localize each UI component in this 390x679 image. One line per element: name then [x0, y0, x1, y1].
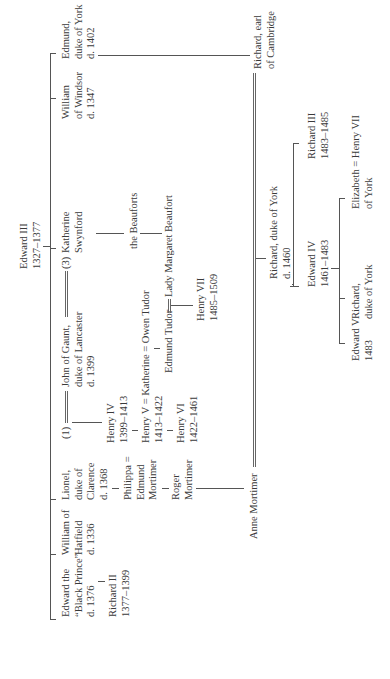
- node-william-hatfield: William of Hatfield d. 1336: [60, 510, 98, 555]
- line: Henry V = Katherine = Owen Tudor: [140, 290, 153, 443]
- line: d. 1368: [98, 463, 111, 500]
- tick-lionel: [50, 499, 56, 500]
- node-richard-ii: Richard II 1377–1399: [107, 570, 132, 617]
- connector-richard-york-1460: [256, 258, 266, 259]
- line: Edward IV: [306, 240, 319, 287]
- connector-owen-edmund: [154, 348, 160, 349]
- connector-roger-anne: [196, 488, 244, 489]
- tick-windsor: [50, 98, 56, 99]
- line: d. 1399: [85, 312, 98, 387]
- node-lady-margaret: Lady Margaret Beaufort: [163, 195, 176, 297]
- connector-henry-iv-v: [132, 430, 138, 431]
- line: Richard III: [306, 112, 319, 159]
- node-edward-iii: Edward III 1327–1377: [18, 222, 43, 269]
- sibling-bar-edward-iv: [339, 199, 340, 344]
- node-edward-iv: Edward IV 1461–1483: [306, 240, 331, 287]
- tick-elizabeth: [339, 198, 345, 199]
- line: Elizabeth = Henry VII: [350, 115, 363, 209]
- connector-philippa: [162, 488, 169, 489]
- connector-root: [43, 246, 50, 247]
- line: Hatfield: [73, 510, 86, 555]
- node-richard-duke-of-york: Richard, duke of York d. 1460: [268, 186, 293, 279]
- node-richard-cambridge: Richard, earl of Cambridge: [252, 11, 277, 69]
- line: Richard, earl: [252, 11, 265, 69]
- node-lionel: Lionel, duke of Clarence d. 1368: [60, 463, 110, 500]
- node-name: Edward III: [18, 222, 31, 269]
- tick-hatfield: [50, 554, 56, 555]
- marriage-line-3: [65, 271, 68, 317]
- line: duke of: [73, 463, 86, 500]
- line: Katherine: [60, 212, 73, 253]
- tick-richard-iii: [293, 143, 299, 144]
- line: Henry VII: [195, 274, 208, 321]
- node-henry-v: Henry V = Katherine = Owen Tudor 1413–14…: [140, 290, 165, 443]
- node-edmund-tudor: Edmund Tudor: [163, 310, 176, 373]
- connector-gaunt-henry-iv: [72, 422, 102, 423]
- sibling-bar-york: [293, 144, 294, 287]
- node-black-prince: Edward the “Black Prince” d. 1376: [60, 554, 98, 617]
- line: Clarence: [85, 463, 98, 500]
- line: d. 1402: [85, 4, 98, 59]
- sibling-bar: [50, 54, 51, 620]
- node-richard-iii: Richard III 1483–1485: [306, 112, 331, 159]
- line: Roger: [170, 460, 183, 500]
- line: 1461–1483: [319, 240, 332, 287]
- node-beauforts: the Beauforts: [128, 193, 141, 249]
- line: “Black Prince”: [73, 554, 86, 617]
- tick-richard-younger: [339, 298, 345, 299]
- tick-black-prince: [50, 619, 56, 620]
- node-anne-mortimer: Anne Mortimer: [248, 473, 261, 539]
- line: duke of York: [363, 264, 376, 319]
- line: Lionel,: [60, 463, 73, 500]
- connector-swynford-beauforts: [96, 233, 124, 234]
- connector-henry-vii: [171, 305, 193, 306]
- line: Edmund: [135, 456, 148, 500]
- tick-edward-v: [339, 343, 345, 344]
- line: 1485–1509: [208, 274, 221, 321]
- line: Henry IV: [105, 396, 118, 443]
- line: 1483: [363, 318, 376, 361]
- connector-lionel: [112, 488, 119, 489]
- line: d. 1336: [85, 510, 98, 555]
- line: John of Gaunt,: [60, 312, 73, 387]
- line: d. 1376: [85, 554, 98, 617]
- line: Richard,: [350, 264, 363, 319]
- node-philippa: Philippa = Edmund Mortimer: [122, 456, 160, 500]
- line: William: [60, 72, 73, 119]
- line: of York: [363, 115, 376, 209]
- marriage-edmund-margaret: [168, 299, 171, 313]
- line: William of: [60, 510, 73, 555]
- family-tree-diagram: Edward III 1327–1377 Edward the “Black P…: [0, 0, 390, 679]
- line: Edmund,: [60, 4, 73, 59]
- connector-edmund-richard-cambridge: [98, 55, 250, 56]
- marriage-line-1: [65, 391, 68, 423]
- line: d. 1460: [281, 186, 294, 279]
- line: d. 1347: [85, 72, 98, 119]
- node-richard-younger: Richard, duke of York: [350, 264, 375, 319]
- node-henry-vi: Henry VI 1422–1461: [175, 396, 200, 443]
- tick-edward-iv: [293, 286, 299, 287]
- line: 1399–1413: [118, 396, 131, 443]
- node-edward-v: Edward V 1483: [350, 318, 375, 361]
- line: Richard II: [107, 570, 120, 617]
- line: Edward V: [350, 318, 363, 361]
- line: duke of Lancaster: [73, 312, 86, 387]
- line: Henry VI: [175, 396, 188, 443]
- line: 1483–1485: [319, 112, 332, 159]
- marriage-anne-richard-cambridge: [253, 73, 256, 467]
- node-henry-iv: Henry IV 1399–1413: [105, 396, 130, 443]
- connector-beauforts-margaret: [140, 233, 162, 234]
- node-william-windsor: William of Windsor d. 1347: [60, 72, 98, 119]
- tick-gaunt: [50, 248, 56, 249]
- marker-third-marriage: (3): [60, 257, 73, 269]
- connector-edward-iv-children: [331, 268, 339, 269]
- line: Swynford: [73, 212, 86, 253]
- line: of Cambridge: [265, 11, 278, 69]
- line: Edward the: [60, 554, 73, 617]
- node-dates: 1327–1377: [31, 222, 44, 269]
- node-katherine-swynford: Katherine Swynford: [60, 212, 85, 253]
- node-john-of-gaunt: John of Gaunt, duke of Lancaster d. 1399: [60, 312, 98, 387]
- connector-black-prince: [98, 581, 105, 582]
- line: Philippa =: [122, 456, 135, 500]
- tick-edmund: [50, 53, 56, 54]
